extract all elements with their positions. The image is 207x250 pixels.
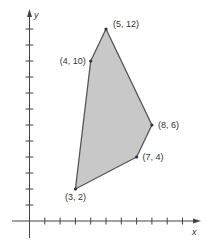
vertex-label: (8, 6) <box>158 120 179 130</box>
shaded-polygon-region <box>75 29 151 189</box>
vertex-label: (3, 2) <box>65 192 86 202</box>
vertex-label: (5, 12) <box>113 19 139 29</box>
vertex-label: (4, 10) <box>60 56 86 66</box>
feasible-region-diagram: (3, 2)(4, 10)(5, 12)(8, 6)(7, 4) x y <box>0 0 207 250</box>
y-axis-label: y <box>33 10 39 20</box>
x-axis-arrow-icon <box>193 219 201 224</box>
y-axis-arrow-icon <box>27 9 32 17</box>
vertex-point <box>135 155 138 158</box>
vertex-point <box>89 59 92 62</box>
vertex-label: (7, 4) <box>143 152 164 162</box>
vertex-point <box>74 187 77 190</box>
vertex-point <box>150 123 153 126</box>
x-axis-label: x <box>191 227 197 237</box>
vertex-point <box>104 27 107 30</box>
